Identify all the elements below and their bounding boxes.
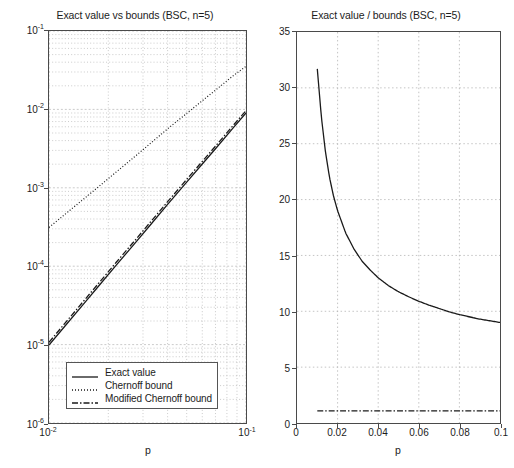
right-x-tickmark bbox=[501, 424, 502, 428]
right-x-tick: 0.02 bbox=[327, 427, 346, 438]
right-y-tick: 10 bbox=[262, 306, 290, 317]
left-legend-item: Modified Chernoff bound bbox=[71, 392, 212, 405]
left-y-tick: 10-1 bbox=[6, 25, 44, 36]
left-y-tickmark bbox=[44, 345, 48, 346]
right-y-tick: 25 bbox=[262, 138, 290, 149]
right-x-tick: 0.06 bbox=[409, 427, 428, 438]
right-x-tickmark bbox=[378, 424, 379, 428]
right-x-tickmark bbox=[296, 424, 297, 428]
series-chernoff-exact bbox=[317, 69, 500, 323]
right-y-tick: 15 bbox=[262, 250, 290, 261]
left-legend-label: Chernoff bound bbox=[105, 380, 172, 391]
right-y-tickmark bbox=[292, 312, 296, 313]
right-plot-graphics bbox=[297, 32, 500, 423]
left-x-tick: 10-1 bbox=[238, 427, 255, 438]
right-x-tickmark bbox=[460, 424, 461, 428]
left-plot-panel: Exact value vs bounds (BSC, n=5) 10-110-… bbox=[0, 0, 262, 468]
left-y-tick: 10-6 bbox=[6, 419, 44, 430]
left-legend-item: Exact value bbox=[71, 366, 212, 379]
right-x-tick: 0.04 bbox=[368, 427, 387, 438]
left-y-tickmark bbox=[44, 188, 48, 189]
right-y-tickmark bbox=[292, 368, 296, 369]
left-y-tickmark bbox=[44, 30, 48, 31]
right-y-tickmark bbox=[292, 199, 296, 200]
legend-line-swatch-solid bbox=[71, 368, 99, 378]
right-y-tick: 20 bbox=[262, 194, 290, 205]
figure-canvas: Exact value vs bounds (BSC, n=5) 10-110-… bbox=[0, 0, 514, 468]
right-x-tick: 0 bbox=[293, 427, 299, 438]
right-x-axis-label: p bbox=[395, 444, 401, 456]
right-y-tick: 30 bbox=[262, 82, 290, 93]
right-y-tickmark bbox=[292, 87, 296, 88]
left-x-axis-label: p bbox=[145, 444, 151, 456]
right-y-tickmark bbox=[292, 143, 296, 144]
right-plot-panel: Exact value / bounds (BSC, n=5) 05101520… bbox=[262, 0, 514, 468]
left-legend: Exact valueChernoff boundModified Cherno… bbox=[66, 362, 218, 409]
legend-line-swatch-dotted bbox=[71, 381, 99, 391]
right-y-tick: 0 bbox=[262, 419, 290, 430]
right-y-tick: 5 bbox=[262, 362, 290, 373]
left-panel-title: Exact value vs bounds (BSC, n=5) bbox=[4, 9, 266, 21]
left-x-tick: 10-2 bbox=[39, 427, 56, 438]
right-x-tick: 0.1 bbox=[494, 427, 508, 438]
left-y-tickmark bbox=[44, 266, 48, 267]
legend-line-swatch-dashdot bbox=[71, 394, 99, 404]
left-legend-label: Modified Chernoff bound bbox=[105, 393, 212, 404]
right-plot-area bbox=[296, 31, 501, 424]
series-exact-value bbox=[49, 113, 246, 345]
right-x-tickmark bbox=[419, 424, 420, 428]
left-y-tick: 10-4 bbox=[6, 261, 44, 272]
left-y-tick: 10-3 bbox=[6, 182, 44, 193]
right-y-tick: 35 bbox=[262, 26, 290, 37]
left-legend-item: Chernoff bound bbox=[71, 379, 212, 392]
left-y-tickmark bbox=[44, 424, 48, 425]
right-x-tick: 0.08 bbox=[450, 427, 469, 438]
right-y-tickmark bbox=[292, 31, 296, 32]
right-y-tickmark bbox=[292, 256, 296, 257]
right-panel-title: Exact value / bounds (BSC, n=5) bbox=[260, 9, 512, 21]
right-x-tickmark bbox=[337, 424, 338, 428]
left-y-tick: 10-5 bbox=[6, 340, 44, 351]
left-y-tickmark bbox=[44, 109, 48, 110]
left-y-tick: 10-2 bbox=[6, 103, 44, 114]
left-legend-label: Exact value bbox=[105, 367, 156, 378]
